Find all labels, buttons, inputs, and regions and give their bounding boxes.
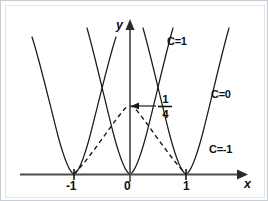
curve-label-c-0: C=0 [211, 89, 231, 100]
x-axis-label: x [244, 178, 251, 191]
x-tick-label-1: 1 [183, 180, 189, 192]
y-axis-label: y [116, 19, 123, 32]
fraction-numerator: 1 [158, 94, 173, 106]
max-value-pointer-arrow-icon [131, 103, 139, 110]
plot-area: C=1 C=0 C=-1 1 4 y x -1 0 1 [5, 5, 265, 198]
max-value-fraction: 1 4 [158, 94, 173, 120]
figure-frame: C=1 C=0 C=-1 1 4 y x -1 0 1 [0, 0, 268, 201]
curve-c-1-path [32, 37, 116, 174]
y-axis-arrow-icon [126, 19, 135, 30]
plot-svg [6, 6, 265, 198]
fraction-denominator: 4 [158, 109, 173, 121]
x-tick-label-0: 0 [124, 180, 130, 192]
x-tick-label-minus-1: -1 [66, 180, 76, 192]
curve-label-c-1: C=1 [167, 36, 187, 47]
curve-label-c-minus-1: C=-1 [209, 144, 232, 155]
